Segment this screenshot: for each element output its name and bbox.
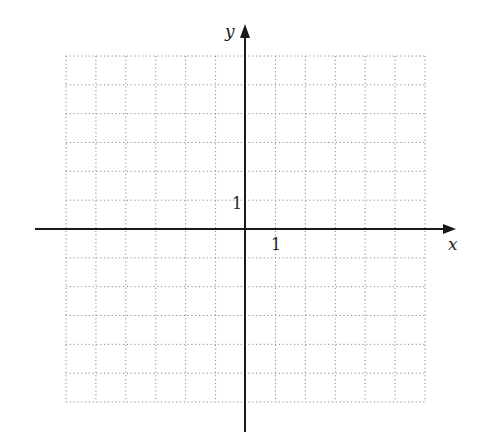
x-axis-label: x bbox=[448, 234, 458, 254]
y-axis-arrow-icon bbox=[240, 24, 250, 38]
coordinate-plane: x y 1 1 bbox=[0, 0, 482, 448]
y-tick-label-1: 1 bbox=[232, 194, 242, 213]
x-axis-arrow-icon bbox=[443, 224, 456, 234]
x-tick-label-1: 1 bbox=[271, 235, 281, 254]
y-axis-label: y bbox=[224, 21, 235, 41]
